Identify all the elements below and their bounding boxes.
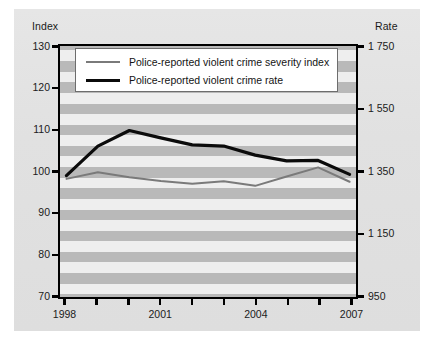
legend-label-severity-index: Police-reported violent crime severity i… [129,56,329,68]
x-tick-mark [127,299,130,305]
right-tick-label: 1 150 [368,227,416,239]
legend-entry-crime-rate: Police-reported violent crime rate [76,70,337,90]
x-tick-label: 2007 [330,308,374,320]
right-tick-mark [358,45,364,48]
left-tick-label: 130 [16,40,50,52]
right-tick-mark [358,233,364,236]
left-tick-label: 80 [16,248,50,260]
right-tick-label: 1 750 [368,40,416,52]
right-tick-label: 950 [368,290,416,302]
left-tick-label: 70 [16,290,50,302]
x-tick-mark [63,299,66,305]
left-tick-mark [52,87,58,90]
line-severity-index [66,167,349,185]
right-tick-label: 1 350 [368,165,416,177]
right-tick-label: 1 550 [368,102,416,114]
line-crime-rate [66,130,349,175]
x-tick-label: 1998 [43,308,87,320]
left-tick-mark [52,45,58,48]
left-axis-title: Index [32,20,58,32]
x-tick-mark [287,299,290,305]
left-tick-label: 90 [16,206,50,218]
x-tick-mark [95,299,98,305]
left-tick-mark [52,129,58,132]
left-tick-label: 100 [16,165,50,177]
legend-label-crime-rate: Police-reported violent crime rate [129,74,283,86]
x-tick-mark [318,299,321,305]
right-axis-title: Rate [375,20,398,32]
left-tick-label: 120 [16,81,50,93]
x-tick-label: 2001 [138,308,182,320]
right-tick-mark [358,108,364,111]
left-tick-mark [52,295,58,298]
x-tick-mark [350,299,353,305]
left-tick-mark [52,254,58,257]
x-tick-mark [159,299,162,305]
legend-entry-severity-index: Police-reported violent crime severity i… [76,52,337,72]
x-tick-mark [223,299,226,305]
right-tick-mark [358,170,364,173]
legend: Police-reported violent crime severity i… [75,48,338,92]
legend-swatch-crime-rate [86,79,120,82]
right-tick-mark [358,295,364,298]
x-tick-mark [255,299,258,305]
x-tick-mark [191,299,194,305]
chart-figure: Index Rate 130120110100908070 1 7501 550… [0,0,438,347]
x-tick-label: 2004 [234,308,278,320]
left-tick-mark [52,170,58,173]
left-tick-mark [52,212,58,215]
legend-swatch-severity-index [86,61,120,63]
left-tick-label: 110 [16,123,50,135]
